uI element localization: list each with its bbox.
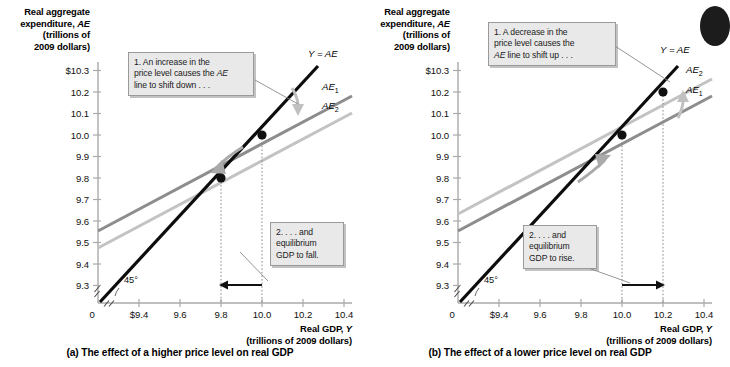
line-label-ae1-text: AE: [686, 84, 699, 95]
callout-step-2: 2. . . . and equilibrium GDP to fall.: [270, 222, 344, 266]
callout-1-line3-post: line to shift up . . .: [505, 50, 572, 60]
line-label-y-equals-ae: Y = AE: [660, 44, 690, 55]
y-tick-label: 9.6: [43, 217, 89, 227]
axis-origin-label: 0: [442, 310, 462, 320]
x-tick-label: 9.8: [201, 310, 241, 320]
equilibrium-dot-initial: [257, 130, 266, 139]
y-axis-title-line4: 2009 dollars): [394, 41, 450, 52]
line-label-ae2: AE2: [322, 100, 339, 113]
y-tick-label: 10.0: [43, 131, 89, 141]
y-tick-label: $10.3: [403, 66, 449, 76]
curve-45-degree-y-equals-ae: [100, 66, 318, 302]
x-axis-title: Real GDP, Y (trillions of 2009 dollars): [540, 323, 712, 346]
y-tick-label: 10.1: [43, 109, 89, 119]
curve-ae2: [458, 79, 712, 214]
line-label-y-equals-ae: Y = AE: [308, 48, 338, 59]
callout-2-line1: 2. . . . and: [529, 230, 566, 240]
panel-a: Real aggregate expenditure, AE (trillion…: [0, 0, 360, 367]
callout-step-1: 1. A decrease in the price level causes …: [488, 22, 616, 66]
y-tick-label: 9.9: [403, 152, 449, 162]
y-tick-label: 9.9: [43, 152, 89, 162]
x-axis-title-sub: (trillions of 2009 dollars): [246, 335, 352, 346]
y-tick-label: 9.8: [403, 174, 449, 184]
line-label-ae1: AE1: [322, 81, 339, 94]
equilibrium-dot-initial: [617, 130, 626, 139]
line-label-ae1-sub: 1: [699, 90, 703, 97]
line-label-ae2-sub: 2: [699, 70, 703, 77]
x-axis-title-sub: (trillions of 2009 dollars): [606, 335, 712, 346]
callout-step-2: 2. . . . and equilibrium GDP to rise.: [523, 225, 597, 269]
axis-origin-label: 0: [82, 310, 102, 320]
panel-b-caption: (b) The effect of a lower price level on…: [360, 347, 720, 358]
callout-1-line3: line to shift down . . .: [134, 80, 210, 90]
equilibrium-dot-new: [216, 173, 225, 182]
y-axis-title-line1: Real aggregate: [24, 6, 90, 17]
x-tick-label: 9.8: [561, 310, 601, 320]
y-tick-label: 9.7: [43, 195, 89, 205]
x-tick-label: $9.4: [479, 310, 519, 320]
y-tick-label: 10.2: [403, 88, 449, 98]
gdp-change-arrow: [219, 281, 262, 290]
angle-arc: [115, 288, 119, 296]
shift-arrow-lower: [210, 147, 243, 174]
x-tick-label: 10.2: [643, 310, 683, 320]
callout-1-line2-pre: price level causes the: [134, 68, 217, 78]
x-axis-title: Real GDP, Y (trillions of 2009 dollars): [180, 323, 352, 346]
callout-2-leader: [240, 252, 268, 281]
y-axis-title-line2-pre: expenditure,: [20, 18, 77, 29]
y-axis-title: Real aggregate expenditure, AE (trillion…: [10, 6, 90, 52]
y-tick-marks: [453, 71, 461, 286]
x-tick-label: $9.4: [119, 310, 159, 320]
callout-step-1: 1. An increase in the price level causes…: [128, 52, 254, 96]
x-tick-label: 10.4: [324, 310, 364, 320]
callout-2-line2: equilibrium: [276, 238, 316, 248]
y-axis-title: Real aggregate expenditure, AE (trillion…: [370, 6, 450, 52]
y-tick-label: 10.1: [403, 109, 449, 119]
y-tick-label: 9.6: [403, 217, 449, 227]
page-edge-artifact: [700, 6, 730, 46]
callout-2-line3: GDP to rise.: [529, 253, 574, 263]
y-tick-label: 9.3: [403, 281, 449, 291]
callout-1-line3-italic: AE: [494, 50, 505, 60]
x-tick-label: 10.0: [242, 310, 282, 320]
angle-arc: [475, 288, 479, 296]
line-label-ae1-sub: 1: [335, 87, 339, 94]
line-label-ae2: AE2: [686, 64, 703, 77]
equilibrium-dot-new: [658, 87, 667, 96]
line-label-ae2-sub: 2: [335, 106, 339, 113]
callout-1-line2-italic: AE: [217, 68, 228, 78]
y-tick-label: 9.4: [403, 260, 449, 270]
gdp-change-arrow: [622, 281, 665, 290]
y-axis-title-line3: (trillions of: [403, 29, 450, 40]
callout-2-line3: GDP to fall.: [276, 250, 319, 260]
line-label-ae1-text: AE: [322, 81, 335, 92]
callout-1-line1: 1. A decrease in the: [494, 27, 568, 37]
line-label-ae2-text: AE: [322, 100, 335, 111]
line-label-ae1: AE1: [686, 84, 703, 97]
y-tick-label: 9.5: [403, 238, 449, 248]
x-axis-title-italic: Y: [706, 323, 712, 334]
line-label-ae2-text: AE: [686, 64, 699, 75]
y-tick-label: $10.3: [43, 66, 89, 76]
y-axis-title-line4: 2009 dollars): [34, 41, 90, 52]
y-tick-label: 9.7: [403, 195, 449, 205]
y-tick-label: 9.3: [43, 281, 89, 291]
y-tick-label: 9.4: [43, 260, 89, 270]
y-tick-marks: [93, 71, 101, 286]
x-axis-title-italic: Y: [346, 323, 352, 334]
x-tick-label: 10.4: [684, 310, 724, 320]
callout-2-line2: equilibrium: [529, 241, 569, 251]
y-tick-label: 10.0: [403, 131, 449, 141]
x-tick-label: 9.6: [160, 310, 200, 320]
y-tick-label: 10.2: [43, 88, 89, 98]
y-axis-title-line2-italic: AE: [77, 18, 90, 29]
x-tick-label: 9.6: [520, 310, 560, 320]
angle-45-label: 45°: [484, 275, 498, 285]
callout-2-line1: 2. . . . and: [276, 227, 313, 237]
panel-b: Real aggregate expenditure, AE (trillion…: [360, 0, 720, 367]
y-tick-label: 9.8: [43, 174, 89, 184]
y-axis-title-line2-italic: AE: [437, 18, 450, 29]
curve-ae1: [98, 96, 352, 231]
y-axis-title-line3: (trillions of: [43, 29, 90, 40]
